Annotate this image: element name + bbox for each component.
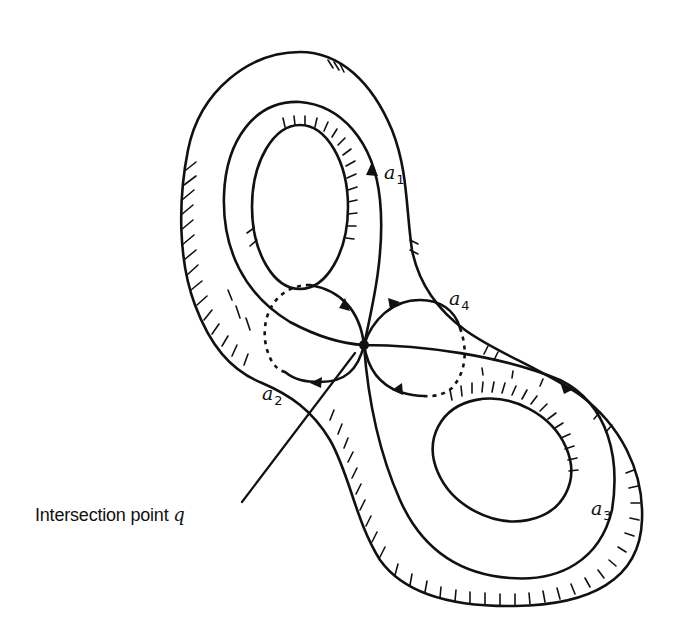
caption-symbol-q: q (173, 504, 184, 525)
label-a1: a1 (384, 163, 405, 186)
intersection-point-q (359, 340, 369, 350)
loop-a2-front (285, 285, 364, 382)
arrow-a1-icon (366, 162, 378, 176)
label-a3-subscript: 3 (603, 508, 611, 523)
loop-a3 (364, 345, 614, 578)
caption-text: Intersection point (35, 505, 173, 525)
intersection-point-caption: Intersection point q (35, 504, 185, 526)
label-a2: a2 (262, 384, 283, 407)
upper-hole (252, 125, 348, 289)
arrow-a4-bottom-icon (392, 383, 403, 395)
loop-a4-back (424, 328, 465, 396)
label-a2-base: a (262, 382, 273, 404)
label-a4: a4 (449, 289, 470, 312)
label-a3: a3 (591, 499, 612, 522)
callout-leader-line (242, 353, 355, 502)
label-a4-base: a (449, 287, 460, 309)
label-a3-base: a (591, 497, 602, 519)
label-a1-subscript: 1 (396, 172, 404, 187)
double-torus-diagram (0, 0, 674, 641)
arrow-a2-bottom-icon (310, 377, 322, 388)
lower-hole (411, 375, 593, 545)
label-a4-subscript: 4 (461, 298, 469, 313)
loop-a1 (224, 102, 381, 345)
label-a1-base: a (384, 161, 395, 183)
surface-hatching (181, 60, 640, 605)
label-a2-subscript: 2 (274, 393, 282, 408)
